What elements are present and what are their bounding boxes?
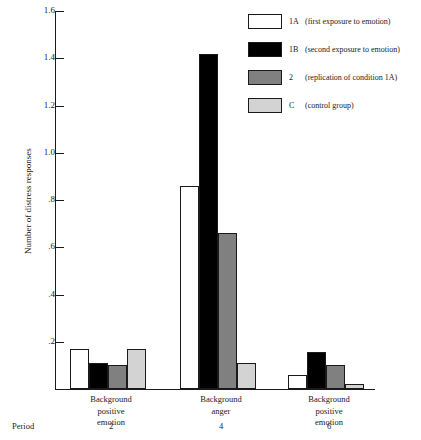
bar-1b-group-3 [307, 352, 326, 389]
category-label-line: Background [166, 394, 276, 406]
y-axis-tick-label: .6 [21, 242, 55, 251]
period-label: Period [12, 421, 34, 431]
category-label-line: Background [56, 394, 166, 406]
bar-c-group-1 [127, 349, 146, 389]
x-axis-category-label: Backgroundanger [166, 394, 276, 417]
bar-2-group-3 [326, 365, 345, 389]
bar-1a-group-3 [288, 375, 307, 389]
period-value: 4 [201, 421, 241, 431]
bar-chart-figure: 1A (first exposure to emotion) 1B (secon… [0, 0, 421, 440]
y-axis-tick-label: 1.6 [21, 6, 55, 15]
y-axis-tick-label: .8 [21, 195, 55, 204]
bar-1b-group-1 [89, 363, 108, 389]
y-axis-tick-label: 1.2 [21, 101, 55, 110]
bar-c-group-3 [345, 384, 364, 389]
y-axis-tick-label: .2 [21, 337, 55, 346]
category-label-line: positive [274, 406, 384, 418]
x-axis-line [55, 389, 375, 390]
bar-2-group-1 [108, 365, 127, 389]
bar-2-group-2 [218, 233, 237, 389]
bar-1a-group-1 [70, 349, 89, 389]
bar-1b-group-2 [199, 54, 218, 389]
y-axis-tick-label: 1.0 [21, 148, 55, 157]
category-label-line: positive [56, 406, 166, 418]
bar-1a-group-2 [180, 186, 199, 389]
bar-c-group-2 [237, 363, 256, 389]
y-axis-tick-label: .4 [21, 290, 55, 299]
category-label-line: anger [166, 406, 276, 418]
period-value: 6 [309, 421, 349, 431]
plot-area [56, 11, 375, 389]
period-value: 2 [91, 421, 131, 431]
y-axis-tick-label: 1.4 [21, 53, 55, 62]
category-label-line: Background [274, 394, 384, 406]
